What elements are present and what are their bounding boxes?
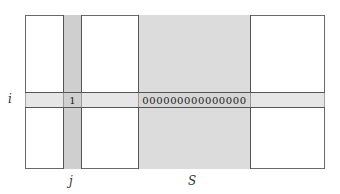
intersection-cell-value: 1: [63, 92, 82, 108]
set-label-s: S: [188, 174, 196, 188]
column-label-j: j: [69, 174, 73, 188]
row-label-i: i: [8, 92, 12, 106]
set-s-row-values: 000000000000000: [138, 92, 251, 108]
